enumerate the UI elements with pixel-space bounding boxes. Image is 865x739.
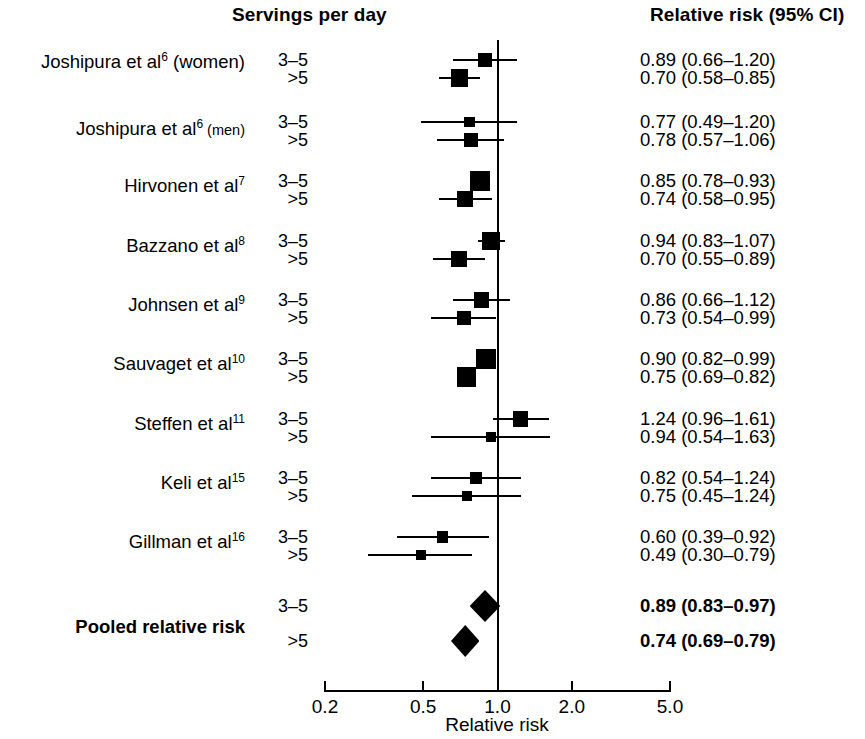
reference-superscript: 11	[233, 412, 245, 426]
servings-value: >5	[287, 428, 308, 446]
confidence-interval-line	[431, 436, 549, 438]
relative-risk-value: 0.94 (0.54–1.63)	[640, 428, 776, 447]
confidence-interval-line	[453, 59, 517, 61]
confidence-interval-line	[437, 139, 503, 141]
servings-value: 3–5	[278, 51, 308, 69]
relative-risk-value: 0.78 (0.57–1.06)	[640, 131, 776, 150]
x-axis-tick-label: 0.5	[410, 697, 436, 716]
relative-risk-value: 0.73 (0.54–0.99)	[640, 309, 776, 328]
point-estimate-marker	[416, 550, 426, 560]
null-reference-line	[497, 40, 499, 690]
confidence-interval-line	[439, 77, 480, 79]
study-label: Hirvonen et al7	[124, 177, 245, 196]
confidence-interval-line	[412, 495, 521, 497]
study-label: Steffen et al11	[134, 415, 245, 434]
x-axis-tick	[422, 681, 424, 690]
point-estimate-marker	[457, 367, 477, 387]
study-label-column: Joshipura et al6 (women)Joshipura et al6…	[0, 0, 245, 739]
confidence-interval-line	[453, 299, 510, 301]
reference-superscript: 6	[161, 50, 168, 64]
point-estimate-marker	[457, 191, 473, 207]
reference-superscript: 10	[232, 352, 245, 366]
relative-risk-value: 0.75 (0.69–0.82)	[640, 368, 776, 387]
confidence-interval-line	[433, 258, 485, 260]
servings-value: 3–5	[278, 528, 308, 546]
study-label: Joshipura et al6 (women)	[41, 53, 245, 72]
servings-value: 3–5	[278, 350, 308, 368]
servings-value: 3–5	[278, 291, 308, 309]
confidence-interval-line	[471, 180, 490, 182]
forest-plot-figure: Servings per day Relative risk (95% CI) …	[0, 0, 865, 739]
x-axis-line	[324, 690, 671, 692]
servings-value: >5	[287, 69, 308, 87]
x-axis-tick	[324, 681, 326, 690]
x-axis-tick	[497, 681, 499, 690]
relative-risk-value: 0.74 (0.69–0.79)	[640, 632, 776, 651]
study-qualifier: (men)	[203, 122, 245, 138]
study-label: Keli et al15	[161, 474, 245, 493]
study-label: Gillman et al16	[129, 533, 245, 552]
point-estimate-marker	[470, 472, 482, 484]
servings-value: 3–5	[278, 113, 308, 131]
servings-value: >5	[287, 190, 308, 208]
point-estimate-marker	[470, 171, 490, 191]
study-label: Pooled relative risk	[75, 618, 245, 637]
pooled-estimate-diamond	[470, 590, 501, 622]
relative-risk-value: 0.70 (0.58–0.85)	[640, 69, 776, 88]
confidence-interval-line	[476, 358, 496, 360]
confidence-interval-line	[431, 317, 496, 319]
point-estimate-marker	[451, 69, 468, 86]
point-estimate-marker	[513, 411, 528, 426]
servings-value: 3–5	[278, 232, 308, 250]
point-estimate-marker	[462, 491, 472, 501]
study-qualifier: (women)	[168, 51, 245, 72]
study-label: Joshipura et al6 (men)	[76, 120, 245, 139]
point-estimate-marker	[437, 531, 448, 542]
servings-value: >5	[287, 368, 308, 386]
confidence-interval-line	[439, 198, 492, 200]
relative-risk-value: 0.49 (0.30–0.79)	[640, 546, 776, 565]
relative-risk-value: 0.75 (0.45–1.24)	[640, 487, 776, 506]
x-axis-tick-label: 2.0	[559, 697, 585, 716]
reference-superscript: 15	[232, 471, 245, 485]
x-axis-tick-label: 1.0	[484, 697, 510, 716]
reference-superscript: 8	[238, 234, 245, 248]
x-axis-tick	[571, 681, 573, 690]
point-estimate-marker	[464, 117, 475, 128]
servings-value: >5	[287, 250, 308, 268]
reference-superscript: 7	[238, 174, 245, 188]
relative-risk-column: 0.89 (0.66–1.20)0.70 (0.58–0.85)0.77 (0.…	[640, 0, 855, 739]
point-estimate-marker	[451, 251, 467, 267]
confidence-interval-line	[421, 121, 517, 123]
servings-value: >5	[287, 487, 308, 505]
confidence-interval-line	[478, 240, 505, 242]
relative-risk-value: 0.74 (0.58–0.95)	[640, 190, 776, 209]
pooled-estimate-diamond	[451, 625, 480, 657]
point-estimate-marker	[474, 292, 489, 307]
study-label: Bazzano et al8	[126, 237, 245, 256]
x-axis-title: Relative risk	[445, 715, 548, 734]
servings-value: >5	[287, 632, 308, 650]
confidence-interval-line	[431, 477, 520, 479]
servings-value: >5	[287, 309, 308, 327]
point-estimate-marker	[486, 432, 496, 442]
study-label: Sauvaget et al10	[113, 355, 245, 374]
point-estimate-marker	[478, 53, 492, 67]
servings-value: 3–5	[278, 172, 308, 190]
confidence-interval-line	[368, 554, 472, 556]
servings-value: 3–5	[278, 410, 308, 428]
point-estimate-marker	[482, 232, 501, 251]
relative-risk-value: 0.70 (0.55–0.89)	[640, 250, 776, 269]
point-estimate-marker	[476, 349, 495, 368]
confidence-interval-line	[397, 536, 489, 538]
x-axis-tick-label: 0.2	[312, 697, 338, 716]
point-estimate-marker	[457, 311, 471, 325]
servings-value: 3–5	[278, 597, 308, 615]
point-estimate-marker	[464, 133, 478, 147]
reference-superscript: 9	[238, 293, 245, 307]
reference-superscript: 16	[232, 530, 245, 544]
confidence-interval-line	[458, 376, 477, 378]
relative-risk-value: 0.89 (0.83–0.97)	[640, 597, 776, 616]
servings-value: >5	[287, 131, 308, 149]
servings-column: 3–5>53–5>53–5>53–5>53–5>53–5>53–5>53–5>5…	[250, 0, 308, 739]
